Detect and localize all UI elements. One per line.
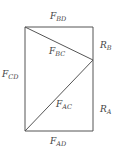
label-f-bc: FBC [48, 46, 65, 58]
label-r-a: RA [99, 104, 112, 116]
label-f-ac: FAC [55, 99, 72, 111]
truss-diagram: FBD FCD FAD FBC FAC RB RA [0, 0, 119, 148]
label-r-b: RB [99, 40, 112, 52]
label-f-cd: FCD [1, 69, 19, 81]
label-f-ad: FAD [49, 136, 67, 148]
member-ac-line [25, 60, 93, 131]
label-f-bd: FBD [49, 11, 67, 23]
